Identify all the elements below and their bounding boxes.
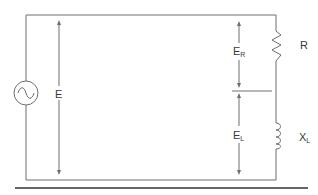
resistor-icon xyxy=(272,31,281,61)
arrowhead-down-icon xyxy=(237,83,241,88)
arrowhead-up-icon xyxy=(237,21,241,26)
resistor-label: R xyxy=(300,39,308,51)
arrowhead-down-icon xyxy=(237,170,241,175)
resistor-voltage-label: ER xyxy=(233,45,245,58)
inductor-icon xyxy=(276,121,281,149)
total-voltage-label: E xyxy=(55,88,62,100)
arrowhead-up-icon xyxy=(237,93,241,98)
arrowhead-down-icon xyxy=(57,170,61,175)
inductor-label: XL xyxy=(299,131,310,144)
arrowhead-up-icon xyxy=(57,20,61,25)
ac-source-icon xyxy=(14,81,38,105)
inductor-voltage-label: EL xyxy=(233,129,244,142)
series-rl-circuit-diagram: E ER EL R XL xyxy=(0,0,318,195)
